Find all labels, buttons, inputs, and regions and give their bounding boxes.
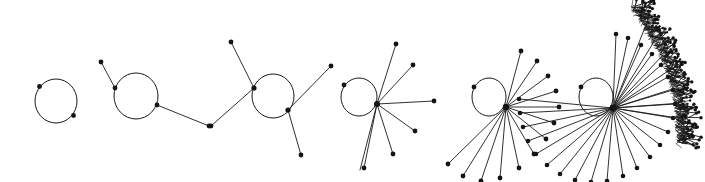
- figure-root: Graph growth sequence Seven successive n…: [0, 0, 705, 182]
- stage-7-leaf: [696, 125, 699, 128]
- stage-6-leaf-5: [659, 63, 664, 68]
- stage-3-leaf-2: [209, 124, 214, 129]
- stage-5-leaf-10: [498, 176, 503, 181]
- stage-5-leaf-6: [552, 121, 557, 126]
- stage-5-edge-12: [463, 107, 506, 176]
- stage-4-leaf-6: [362, 166, 367, 171]
- stage-7-leaf: [689, 137, 691, 139]
- stage-7-leaf: [688, 121, 691, 124]
- stage-7-edge: [674, 84, 677, 85]
- stage-4-loop: [341, 78, 377, 116]
- stage-6-edge-17: [575, 108, 613, 180]
- stage-5-loop: [472, 78, 506, 116]
- stage-4-edge-3: [377, 101, 434, 104]
- stage-6-leaf-19: [545, 163, 550, 168]
- stage-7-leaf: [651, 16, 653, 18]
- stage-5-leaf-13: [446, 162, 451, 167]
- stage-7-leaf: [681, 116, 683, 118]
- stage-4-edge-4: [377, 104, 415, 131]
- stage-6-leaf-24: [517, 97, 522, 102]
- stage-4-leaf-3: [432, 99, 437, 104]
- stage-7-leaf: [692, 124, 694, 126]
- stage-6-leaf-11: [658, 143, 663, 148]
- stage-7-leaf: [691, 143, 694, 146]
- stage-7-leaf: [657, 15, 660, 18]
- stage-7-leaf: [684, 120, 686, 122]
- stage-7-leaf: [697, 138, 700, 141]
- stage-4-edge-2: [377, 65, 413, 104]
- stage-7-leaf: [676, 57, 678, 59]
- stage-7-leaf: [664, 43, 666, 45]
- stage-7-leaf: [643, 17, 645, 19]
- stage-6-edge-19: [547, 108, 613, 165]
- stage-7-leaf: [662, 40, 664, 42]
- stage-5-leaf-2: [535, 59, 540, 64]
- stage-2-group: [99, 60, 212, 129]
- stage-2-edge-1: [101, 62, 115, 88]
- stage-7-leaf: [684, 139, 686, 141]
- stage-6-leaf-15: [605, 179, 610, 182]
- stage-7-leaf: [682, 92, 684, 94]
- stage-7-leaf: [686, 87, 688, 89]
- stage-5-edge-3: [506, 76, 548, 107]
- stage-7-leaf: [654, 18, 657, 21]
- stage-7-leaf: [657, 22, 659, 24]
- stage-7-leaf: [699, 116, 702, 119]
- stage-7-leaf: [690, 89, 693, 92]
- stage-6-edge-5: [613, 65, 661, 108]
- stage-7-leaf: [659, 32, 661, 34]
- stage-7-leaf: [697, 110, 700, 113]
- stage-3-edge-2: [211, 88, 254, 126]
- stage-5-edge-10: [500, 107, 506, 178]
- stage-7-leaf: [692, 136, 694, 138]
- stage-1-group: [35, 79, 77, 123]
- stage-4-edge-7: [360, 104, 377, 170]
- stage-3-edge-4: [288, 110, 301, 155]
- stage-7-leaf: [671, 36, 674, 39]
- stage-7-leaf: [651, 30, 653, 32]
- stage-7-leaf: [670, 50, 673, 53]
- stage-4-edge-5: [377, 104, 393, 154]
- stage-4-loop-node: [342, 83, 347, 88]
- stage-7-leaf: [686, 83, 689, 86]
- stage-6-loop-node: [579, 85, 584, 90]
- stage-4-rays: [360, 44, 434, 170]
- stage-7-leaf: [690, 133, 693, 136]
- stage-6-leaf-1: [614, 32, 619, 37]
- stage-7-leaf: [658, 25, 660, 27]
- stage-7-leaf: [686, 103, 688, 105]
- stage-7-leaf: [694, 106, 696, 108]
- stage-7-leaf: [687, 133, 689, 135]
- stage-6-leaf-14: [621, 174, 626, 179]
- stage-7-leaf: [692, 103, 695, 106]
- stage-7-connector-edge: [613, 41, 655, 108]
- stage-3-leaf-4: [299, 153, 304, 158]
- stage-5-leaf-7: [544, 137, 549, 142]
- stage-7-leaf: [644, 2, 647, 5]
- stage-4-leaf-2: [411, 63, 416, 68]
- stage-2-leaf-1: [99, 60, 104, 65]
- stage-6-leaf-18: [558, 172, 563, 177]
- stage-7-leaf: [683, 84, 685, 86]
- stage-1-node-b: [71, 113, 76, 118]
- stage-7-leaf: [663, 27, 666, 30]
- stage-5-edge-13: [448, 107, 506, 164]
- stage-6-leaf-12: [648, 155, 653, 160]
- stage-7-leaf: [651, 7, 654, 10]
- stage-7-connector-edge: [613, 103, 677, 108]
- stage-6-leaf-23: [518, 111, 523, 116]
- stage-6-leaf-10: [666, 130, 671, 135]
- graph-growth-sequence-svg: [0, 0, 705, 182]
- stage-7-edge: [651, 39, 652, 42]
- stage-7-leaf: [655, 29, 657, 31]
- stage-4-edge-6: [364, 104, 377, 168]
- stage-6-leaf-13: [635, 166, 640, 171]
- stage-7-leaf: [673, 41, 676, 44]
- stage-7-leaf: [673, 45, 676, 48]
- stage-5-edge-11: [481, 107, 506, 181]
- stage-7-leaf: [667, 40, 669, 42]
- stage-7-leaf: [673, 79, 675, 81]
- stage-5-leaf-11: [479, 179, 484, 182]
- stage-5-leaf-12: [461, 174, 466, 179]
- stage-7-leaf: [697, 145, 700, 148]
